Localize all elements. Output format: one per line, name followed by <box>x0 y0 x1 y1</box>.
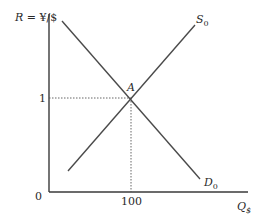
x-axis-label: Q$ <box>237 200 251 215</box>
origin-label: 0 <box>35 190 42 203</box>
y-tick-label: 1 <box>39 92 46 105</box>
demand-label: D0 <box>203 176 218 191</box>
x-tick-label: 100 <box>121 195 142 208</box>
supply-demand-diagram: R = ¥/$ Q$ 0 1 100 A S0 D0 <box>0 0 268 219</box>
supply-curve-s0 <box>68 25 195 171</box>
equilibrium-point-label: A <box>126 81 135 94</box>
supply-label: S0 <box>196 13 209 28</box>
y-axis-label: R = ¥/$ <box>14 11 57 24</box>
